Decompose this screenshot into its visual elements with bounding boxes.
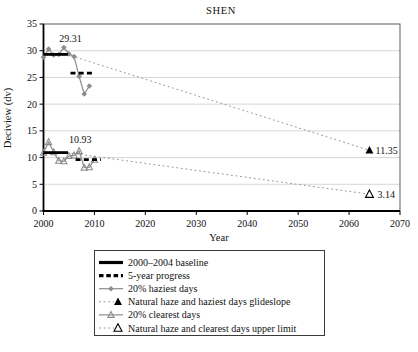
x-tick-label: 2070 bbox=[390, 218, 410, 229]
x-tick-label: 2060 bbox=[339, 218, 359, 229]
legend-item-label: Natural haze and clearest days upper lim… bbox=[128, 323, 296, 334]
y-tick-label: 10 bbox=[27, 152, 37, 163]
plot-frame bbox=[43, 24, 400, 211]
legend-item-label: 20% clearest days bbox=[128, 309, 200, 320]
value-annotation: 3.14 bbox=[378, 189, 396, 200]
value-annotation: 11.35 bbox=[376, 145, 398, 156]
value-annotation: 29.31 bbox=[59, 33, 82, 44]
diamond-marker bbox=[71, 54, 77, 60]
annotations: 29.3110.9311.353.14 bbox=[59, 33, 397, 200]
data-series bbox=[40, 45, 373, 198]
value-annotation: 10.93 bbox=[69, 134, 92, 145]
x-tick-label: 2000 bbox=[34, 218, 54, 229]
y-tick-label: 25 bbox=[27, 72, 37, 83]
chart-canvas: SHEN 05101520253035200020102020203020402… bbox=[0, 0, 418, 352]
legend-item-label: 2000–2004 baseline bbox=[128, 257, 209, 268]
y-tick-label: 20 bbox=[27, 99, 37, 110]
y-tick-label: 15 bbox=[27, 125, 37, 136]
y-tick-label: 0 bbox=[32, 205, 37, 216]
plot-border bbox=[44, 24, 401, 211]
legend-item-natural-haze-and-haziest-days-glideslope: Natural haze and haziest days glideslope bbox=[99, 296, 291, 307]
haze-trend-figure: SHEN 05101520253035200020102020203020402… bbox=[0, 0, 418, 352]
glideslope-line bbox=[67, 153, 370, 195]
x-tick-label: 2050 bbox=[288, 218, 308, 229]
series-20-haziest-days bbox=[41, 45, 92, 97]
legend-item-label: 20% haziest days bbox=[128, 283, 198, 294]
open-triangle-marker bbox=[365, 190, 373, 198]
x-tick-label: 2020 bbox=[135, 218, 155, 229]
series-natural-haze-and-clearest-days-upper-limit bbox=[67, 153, 374, 198]
chart-title: SHEN bbox=[206, 5, 236, 16]
legend-item-label: 5-year progress bbox=[128, 270, 190, 281]
diamond-marker bbox=[81, 91, 87, 97]
legend-item-label: Natural haze and haziest days glideslope bbox=[128, 296, 291, 307]
x-tick-label: 2010 bbox=[84, 218, 104, 229]
x-axis-label: Year bbox=[209, 232, 229, 243]
axis-ticks bbox=[40, 24, 401, 215]
x-tick-label: 2040 bbox=[237, 218, 257, 229]
gridlines bbox=[44, 51, 401, 185]
y-tick-label: 30 bbox=[27, 45, 37, 56]
y-axis-label: Deciview (dv) bbox=[2, 87, 14, 148]
glideslope-line bbox=[67, 54, 370, 150]
axis-tick-labels: 0510152025303520002010202020302040205020… bbox=[27, 18, 410, 229]
y-tick-label: 5 bbox=[32, 179, 37, 190]
x-tick-label: 2030 bbox=[186, 218, 206, 229]
legend: 2000–2004 baseline5-year progress20% haz… bbox=[95, 251, 325, 336]
diamond-marker bbox=[87, 83, 93, 89]
legend-item-natural-haze-and-clearest-days-upper-limit: Natural haze and clearest days upper lim… bbox=[99, 323, 296, 334]
y-tick-label: 35 bbox=[27, 18, 37, 29]
